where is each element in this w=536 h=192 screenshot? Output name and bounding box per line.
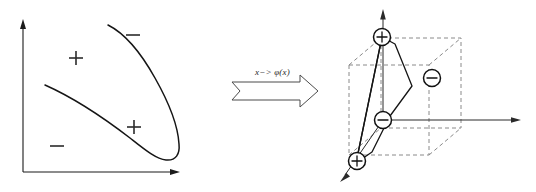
feature-marker-plus-top [374, 29, 391, 46]
input-marker-plus-upper [69, 51, 83, 65]
figure-canvas: x−> φ(x) [0, 0, 536, 192]
cube-edge-br [429, 128, 461, 155]
vertical-axis-arrowhead [380, 9, 386, 20]
decision-boundary-curve [45, 25, 179, 160]
block-arrow-right [232, 75, 318, 107]
feature-depth-axis [340, 120, 383, 182]
cube-edge-tr [429, 38, 461, 65]
transform-label: x−> φ(x) [254, 67, 290, 77]
feature-marker-minus-right [424, 70, 441, 87]
feature-horizontal-axis [383, 117, 521, 123]
input-x-axis [23, 169, 180, 175]
transform-arrow-group: x−> φ(x) [232, 67, 318, 107]
input-marker-plus-lower [127, 120, 141, 134]
separating-plane [356, 37, 412, 163]
y-axis-arrowhead [20, 19, 26, 29]
cube-edge-bl [349, 128, 381, 155]
feature-marker-minus-origin [375, 112, 392, 129]
horizontal-axis-arrowhead [511, 117, 521, 123]
feature-space-plot [340, 9, 521, 182]
input-y-axis [20, 19, 26, 172]
cube-back-face [381, 38, 461, 128]
kernel-feature-map-figure: x−> φ(x) [0, 0, 536, 192]
x-axis-arrowhead [170, 169, 180, 175]
input-space-plot [20, 19, 180, 175]
feature-marker-plus-bottom [349, 153, 366, 170]
